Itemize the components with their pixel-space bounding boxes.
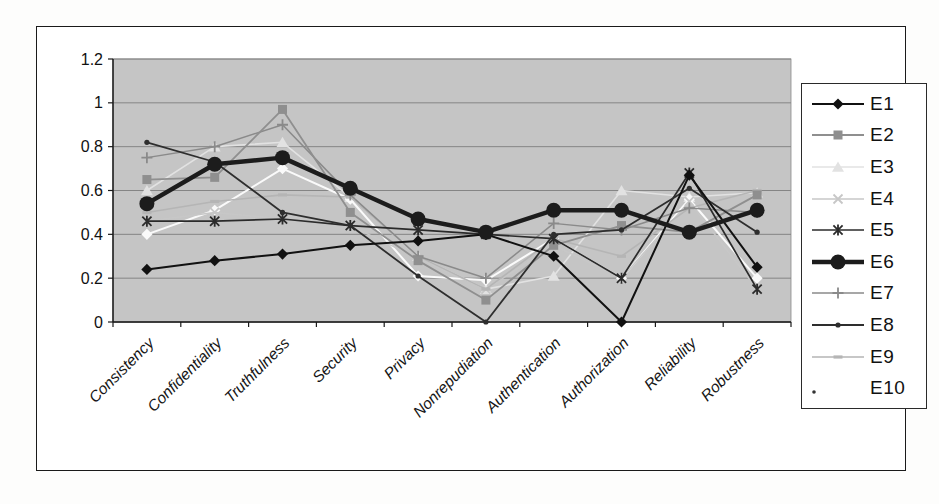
legend-dot-artifact	[812, 390, 816, 394]
x-category-label: Authorization	[555, 334, 632, 411]
marker-dot	[551, 232, 556, 237]
legend-swatch-E1	[810, 94, 866, 114]
marker-diamond	[832, 98, 843, 109]
legend-item-E4: E4	[810, 185, 926, 213]
x-category-label: Privacy	[380, 333, 429, 382]
y-tick-label: 1.2	[81, 51, 103, 68]
marker-dash	[142, 211, 151, 214]
marker-circle	[207, 157, 222, 172]
legend-label-E3: E3	[870, 156, 894, 178]
legend-item-E5: E5	[810, 216, 926, 244]
marker-dot	[416, 273, 421, 278]
y-tick-label: 0	[94, 314, 103, 331]
x-category-label: Reliability	[640, 333, 700, 393]
scanned-figure-page: 00.20.40.60.811.2ConsistencyConfidential…	[0, 0, 939, 504]
marker-circle	[750, 203, 765, 218]
marker-square	[210, 173, 219, 182]
legend-item-E6: E6	[810, 248, 926, 276]
legend-label-E4: E4	[870, 188, 894, 210]
marker-circle	[546, 203, 561, 218]
legend-label-E10: E10	[870, 377, 905, 399]
legend-label-E7: E7	[870, 282, 894, 304]
marker-circle	[478, 225, 493, 240]
marker-circle	[682, 225, 697, 240]
marker-dot	[619, 227, 624, 232]
y-tick-label: 1	[94, 94, 103, 111]
marker-dash	[210, 200, 219, 203]
y-axis-labels: 00.20.40.60.811.2	[81, 51, 113, 331]
legend-swatch-E10	[810, 378, 866, 398]
y-tick-label: 0.8	[81, 138, 103, 155]
marker-dot	[144, 140, 149, 145]
legend-swatch-E6	[810, 252, 866, 272]
marker-dot	[348, 223, 353, 228]
y-tick-label: 0.2	[81, 270, 103, 287]
marker-dot	[835, 322, 840, 327]
marker-square	[278, 105, 287, 114]
marker-square	[346, 208, 355, 217]
marker-circle	[411, 211, 426, 226]
figure-frame: 00.20.40.60.811.2ConsistencyConfidential…	[36, 26, 906, 471]
marker-square	[481, 296, 490, 305]
legend-swatch-E8	[810, 315, 866, 335]
marker-square	[753, 190, 762, 199]
legend-item-E1: E1	[810, 90, 926, 118]
legend-swatch-E2	[810, 125, 866, 145]
legend-swatch-E5	[810, 220, 866, 240]
legend-swatch-E4	[810, 189, 866, 209]
legend-swatch-E3	[810, 157, 866, 177]
marker-circle	[343, 181, 358, 196]
legend-label-E9: E9	[870, 346, 894, 368]
legend-item-E9: E9	[810, 343, 926, 371]
marker-plus	[833, 288, 844, 299]
line-chart: 00.20.40.60.811.2ConsistencyConfidential…	[37, 27, 905, 470]
marker-square	[414, 256, 423, 265]
marker-dash	[278, 193, 287, 196]
marker-dash	[481, 288, 490, 291]
x-category-label: Truthfulness	[221, 334, 293, 406]
legend-item-E3: E3	[810, 153, 926, 181]
marker-dot	[687, 186, 692, 191]
marker-circle	[139, 196, 154, 211]
marker-square	[142, 175, 151, 184]
x-category-label: Security	[309, 333, 361, 385]
y-tick-label: 0.4	[81, 226, 103, 243]
legend: E1E2E3E4E5E6E7E8E9E10	[801, 83, 927, 409]
marker-dot	[483, 319, 488, 324]
marker-dash	[834, 355, 843, 358]
legend-item-E8: E8	[810, 311, 926, 339]
marker-dot	[280, 210, 285, 215]
marker-dash	[617, 255, 626, 258]
legend-swatch-E7	[810, 283, 866, 303]
y-tick-label: 0.6	[81, 182, 103, 199]
legend-label-E5: E5	[870, 219, 894, 241]
marker-dot	[755, 230, 760, 235]
x-axis-labels: ConsistencyConfidentialityTruthfulnessSe…	[85, 333, 767, 420]
legend-item-E10: E10	[810, 374, 926, 402]
legend-label-E2: E2	[870, 124, 894, 146]
legend-swatch-E9	[810, 347, 866, 367]
legend-label-E8: E8	[870, 314, 894, 336]
marker-square	[834, 131, 843, 140]
marker-circle	[275, 150, 290, 165]
marker-circle	[831, 254, 846, 269]
marker-circle	[614, 203, 629, 218]
legend-item-E7: E7	[810, 279, 926, 307]
x-category-label: Consistency	[85, 333, 158, 406]
legend-label-E1: E1	[870, 93, 894, 115]
legend-item-E2: E2	[810, 121, 926, 149]
x-category-label: Robustness	[697, 334, 767, 404]
legend-label-E6: E6	[870, 251, 894, 273]
